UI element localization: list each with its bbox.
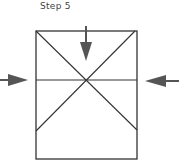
right-arrow-icon	[0, 74, 28, 86]
left-arrow-icon	[145, 75, 179, 87]
fold-diagram	[0, 0, 193, 165]
